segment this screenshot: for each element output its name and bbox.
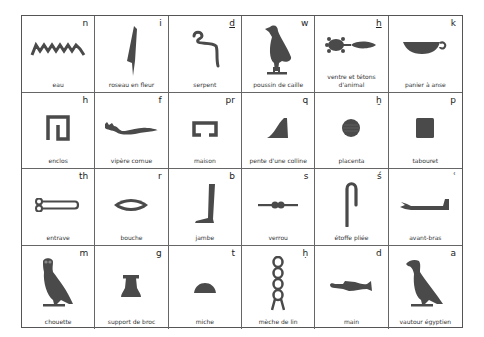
cell-label: ventre et tétons d'animal <box>315 73 387 89</box>
cell-label: jambe <box>169 234 241 242</box>
cell-label: mèche de lin <box>242 318 314 326</box>
hill-slope-icon <box>266 117 290 139</box>
cell-basket: k panier à anse <box>389 16 462 93</box>
owl-icon <box>39 256 77 312</box>
phoneme: a <box>450 249 456 258</box>
leg-icon <box>194 183 216 225</box>
reed-icon <box>124 25 138 77</box>
cell-belly: h ventre et tétons d'animal <box>315 16 388 93</box>
phoneme: q <box>303 96 309 105</box>
phoneme: pr <box>226 96 235 105</box>
phoneme: t <box>231 249 235 258</box>
cell-label: enclos <box>22 157 94 165</box>
cell-label: eau <box>22 81 94 89</box>
cell-label: vipère cornue <box>95 157 167 165</box>
phoneme: ḥ <box>303 249 309 258</box>
cell-label: poussin de caille <box>242 81 314 89</box>
cell-jar-stand: g support de broc <box>95 246 168 329</box>
tether-icon <box>35 198 81 212</box>
cell-label: entrave <box>22 234 94 242</box>
phoneme: n <box>83 19 89 28</box>
phoneme: h <box>376 19 382 28</box>
phoneme: ʿ <box>453 172 456 181</box>
cell-label: chouette <box>22 318 94 326</box>
cell-label: panier à anse <box>389 81 462 89</box>
cell-label: tabouret <box>389 157 462 165</box>
cell-leg: b jambe <box>169 169 242 246</box>
hieroglyph-alphabet-grid: n eau i roseau en fleur d serpent w pous… <box>21 15 463 328</box>
cell-cobra: d serpent <box>169 16 242 93</box>
bolt-icon <box>257 200 299 210</box>
cell-label: étoffe pliée <box>315 234 387 242</box>
phoneme: d <box>376 249 382 258</box>
phoneme: d <box>229 19 235 28</box>
cell-water: n eau <box>22 16 95 93</box>
cell-horned-viper: f vipère cornue <box>95 93 168 169</box>
cell-flax-wick: ḥ mèche de lin <box>242 246 315 329</box>
cell-label: roseau en fleur <box>95 81 167 89</box>
cell-bread-loaf: t miche <box>169 246 242 329</box>
cell-quail-chick: w poussin de caille <box>242 16 315 93</box>
cell-hill-slope: q pente d'une colline <box>242 93 315 169</box>
phoneme: g <box>156 249 162 258</box>
cell-label: maison <box>169 157 241 165</box>
folded-cloth-icon <box>343 181 359 227</box>
water-icon <box>30 41 86 57</box>
cell-label: bouche <box>95 234 167 242</box>
horned-viper-icon <box>103 120 159 136</box>
placenta-icon <box>341 118 361 138</box>
forearm-icon <box>399 198 451 212</box>
phoneme: i <box>159 19 162 28</box>
cell-enclosure: h enclos <box>22 93 95 169</box>
cell-stool: p tabouret <box>389 93 462 169</box>
phoneme: p <box>450 96 456 105</box>
bread-loaf-icon <box>193 282 217 294</box>
jar-stand-icon <box>120 274 142 298</box>
cobra-icon <box>190 30 220 68</box>
hand-icon <box>329 279 373 293</box>
cell-label: miche <box>169 318 241 326</box>
phoneme: ḫ <box>376 96 382 105</box>
cell-hand: d main <box>315 246 388 329</box>
cell-label: support de broc <box>95 318 167 326</box>
basket-icon <box>402 40 448 56</box>
cell-bolt: s verrou <box>242 169 315 246</box>
phoneme: th <box>79 172 88 181</box>
phoneme: b <box>229 172 235 181</box>
phoneme: f <box>158 96 161 105</box>
phoneme: k <box>451 19 456 28</box>
belly-icon <box>325 35 377 55</box>
stool-icon <box>415 117 435 139</box>
cell-tether: th entrave <box>22 169 95 246</box>
vulture-icon <box>405 256 445 312</box>
cell-vulture: a vautour égyptien <box>389 246 462 329</box>
cell-label: pente d'une colline <box>242 157 314 165</box>
quail-chick-icon <box>261 23 295 79</box>
cell-house: pr maison <box>169 93 242 169</box>
cell-placenta: ḫ placenta <box>315 93 388 169</box>
phoneme: m <box>80 249 89 258</box>
cell-folded-cloth: ś étoffe pliée <box>315 169 388 246</box>
mouth-icon <box>113 198 149 212</box>
house-icon <box>192 121 218 137</box>
cell-reed: i roseau en fleur <box>95 16 168 93</box>
cell-label: main <box>315 318 387 326</box>
phoneme: r <box>158 172 162 181</box>
enclosure-icon <box>46 115 70 141</box>
cell-label: verrou <box>242 234 314 242</box>
cell-label: serpent <box>169 81 241 89</box>
phoneme: h <box>83 96 89 105</box>
cell-forearm: ʿ avant-bras <box>389 169 462 246</box>
cell-mouth: r bouche <box>95 169 168 246</box>
cell-label: vautour égyptien <box>389 318 462 326</box>
cell-label: avant-bras <box>389 234 462 242</box>
phoneme: ś <box>377 172 382 181</box>
cell-label: placenta <box>315 157 387 165</box>
flax-wick-icon <box>271 256 285 312</box>
phoneme: w <box>301 19 308 28</box>
cell-owl: m chouette <box>22 246 95 329</box>
phoneme: s <box>304 172 309 181</box>
